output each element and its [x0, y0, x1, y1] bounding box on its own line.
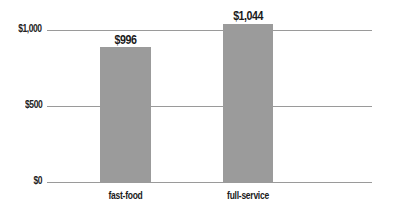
bar-full-service — [223, 24, 273, 182]
bar-chart: $1,000 $500 $0 $996 $1,044 fast-food ful… — [0, 0, 393, 210]
gridline-1000 — [47, 30, 372, 31]
y-tick-label-0: $0 — [33, 176, 42, 186]
x-tick-label-fast-food: fast-food — [100, 190, 152, 201]
gridline-500 — [47, 106, 372, 107]
gridline-0 — [47, 182, 372, 183]
y-tick-label-500: $500 — [25, 100, 42, 110]
x-tick-label-full-service: full-service — [218, 190, 278, 201]
y-tick-label-1000: $1,000 — [19, 24, 42, 34]
data-label-fast-food: $996 — [100, 33, 150, 46]
bar-fast-food — [100, 47, 151, 182]
data-label-full-service: $1,044 — [219, 9, 276, 22]
